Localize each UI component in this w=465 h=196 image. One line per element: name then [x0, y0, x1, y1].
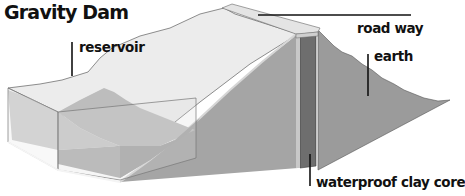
earth-label: earth — [374, 48, 413, 64]
clay-core-label: waterproof clay core — [316, 174, 465, 190]
reservoir-label: reservoir — [79, 39, 144, 55]
diagram-title: Gravity Dam — [4, 1, 128, 23]
clay-core-side — [296, 36, 300, 168]
road-way-label: road way — [357, 20, 423, 36]
clay-core-front — [300, 34, 316, 168]
